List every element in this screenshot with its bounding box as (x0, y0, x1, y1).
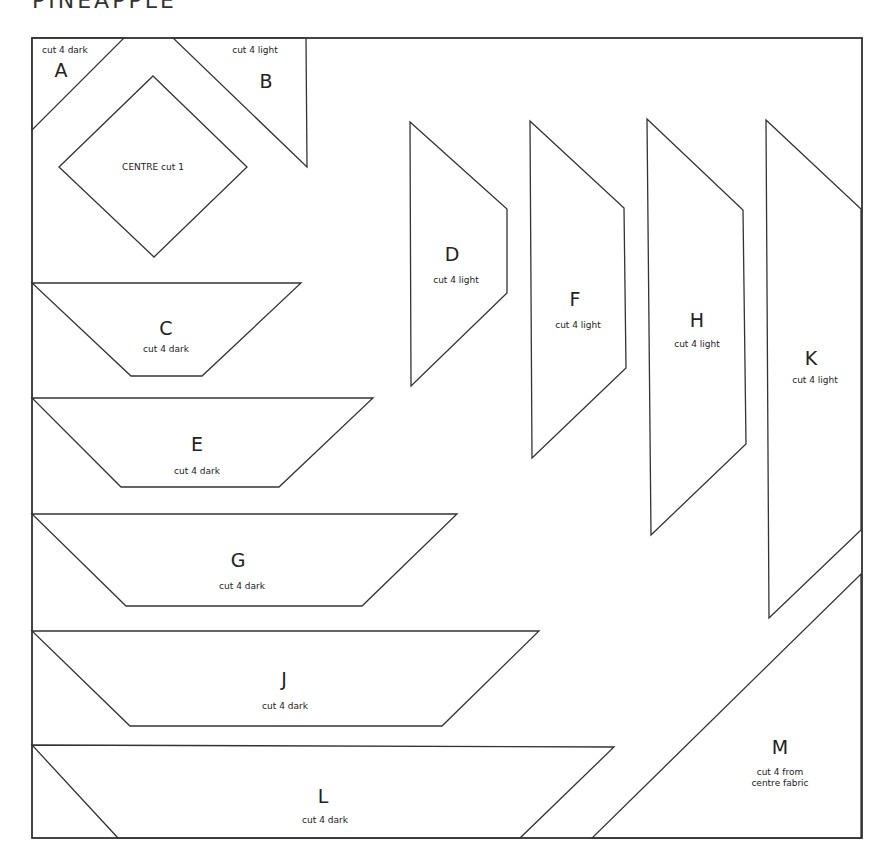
piece-d-letter: D (445, 243, 460, 265)
piece-l-note: cut 4 dark (302, 815, 349, 825)
piece-g-note: cut 4 dark (219, 581, 266, 591)
template-sheet: cut 4 dark A cut 4 light B CENTRE cut 1 … (0, 0, 894, 867)
piece-centre[interactable]: CENTRE cut 1 (59, 76, 247, 257)
piece-h[interactable]: H cut 4 light (647, 119, 746, 535)
piece-m-note-line2: centre fabric (751, 778, 808, 788)
piece-k-letter: K (805, 347, 818, 369)
piece-b-note: cut 4 light (232, 45, 278, 55)
piece-c-letter: C (159, 317, 172, 339)
piece-m-shape (592, 574, 861, 838)
piece-a[interactable]: cut 4 dark A (32, 38, 124, 130)
piece-e[interactable]: E cut 4 dark (32, 398, 373, 487)
piece-a-note: cut 4 dark (42, 45, 89, 55)
piece-c-note: cut 4 dark (143, 344, 190, 354)
piece-a-letter: A (55, 59, 68, 81)
piece-b-letter: B (259, 70, 272, 92)
piece-m[interactable]: M cut 4 from centre fabric (592, 574, 861, 838)
piece-j-note: cut 4 dark (262, 701, 309, 711)
piece-d-note: cut 4 light (433, 275, 479, 285)
piece-e-letter: E (191, 433, 203, 455)
piece-l-letter: L (318, 785, 329, 807)
piece-j-letter: J (280, 668, 287, 690)
piece-centre-note: CENTRE cut 1 (122, 162, 184, 172)
piece-f-letter: F (570, 288, 581, 310)
piece-l[interactable]: L cut 4 dark (32, 745, 614, 838)
piece-k[interactable]: K cut 4 light (766, 120, 861, 618)
piece-h-letter: H (690, 309, 704, 331)
piece-h-note: cut 4 light (674, 339, 720, 349)
piece-d[interactable]: D cut 4 light (410, 122, 507, 386)
piece-m-letter: M (772, 736, 788, 758)
piece-j[interactable]: J cut 4 dark (32, 631, 539, 726)
piece-c[interactable]: C cut 4 dark (32, 283, 301, 376)
piece-g-letter: G (231, 549, 246, 571)
piece-k-note: cut 4 light (792, 375, 838, 385)
piece-f[interactable]: F cut 4 light (530, 121, 626, 458)
piece-f-note: cut 4 light (555, 320, 601, 330)
piece-m-note-line1: cut 4 from (757, 767, 804, 777)
piece-e-note: cut 4 dark (174, 466, 221, 476)
piece-g[interactable]: G cut 4 dark (32, 514, 457, 606)
piece-k-shape (766, 120, 861, 618)
